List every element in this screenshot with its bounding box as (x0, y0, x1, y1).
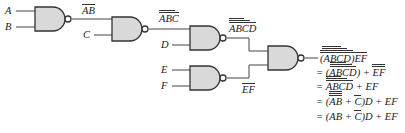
signal-label-abc: ABC (159, 13, 179, 24)
nand-gate-1 (35, 7, 65, 31)
inverter-bubble-3 (220, 35, 226, 41)
equation-line-4: = (AB + C)D + EF (316, 96, 398, 107)
equation-line-5: = (AB + C)D + EF (316, 111, 398, 122)
inverter-bubble-4 (220, 75, 226, 81)
nand-gate-4 (190, 66, 220, 90)
equation-line-3: = ABCD + EF (316, 81, 378, 92)
wire-ef (227, 65, 268, 78)
wire-abcd (227, 38, 268, 51)
input-label-b: B (5, 21, 11, 32)
input-label-a: A (5, 5, 11, 16)
signal-label-ef: EF (242, 84, 255, 95)
inverter-bubble-2 (142, 26, 148, 32)
nand-gate-5 (268, 46, 298, 70)
input-label-f: F (161, 80, 167, 91)
input-label-d: D (161, 39, 169, 50)
signal-label-ab: AB (82, 5, 95, 16)
input-label-c: C (83, 29, 90, 40)
inverter-bubble-1 (65, 16, 71, 22)
input-label-e: E (161, 64, 167, 75)
nand-gate-3 (190, 26, 220, 50)
signal-label-abcd: ABCD (229, 23, 256, 34)
inverter-bubble-5 (298, 55, 304, 61)
nand-gate-2 (112, 17, 142, 41)
